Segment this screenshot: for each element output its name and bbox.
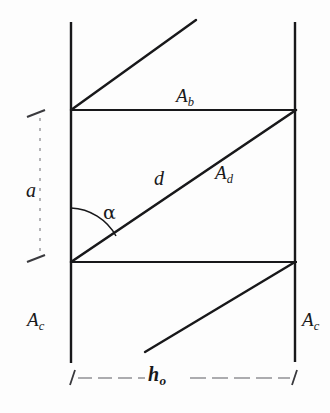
label-angle-alpha: α [103, 203, 116, 222]
label-area-d-base: A [215, 162, 227, 183]
label-area-c-left: Ac [27, 310, 44, 329]
label-area-c-right-base: A [302, 309, 314, 330]
bottom-diagonal-line [145, 262, 295, 352]
diagram-canvas [0, 0, 330, 413]
main-diagonal-line [71, 110, 296, 262]
label-area-c-left-base: A [27, 309, 39, 330]
label-diagonal-d: d [154, 168, 164, 188]
label-width-ho-subscript: o [159, 373, 166, 388]
label-area-c-right-subscript: c [314, 319, 320, 333]
label-width-ho-base: h [148, 363, 159, 385]
height-dimension-tick-bottom [27, 255, 45, 262]
technical-diagram: Ab Ad d a α Ac Ac ho [0, 0, 330, 413]
height-dimension-tick-top [27, 110, 45, 117]
label-area-b-base: A [176, 85, 188, 106]
label-area-c-right: Ac [302, 310, 319, 329]
width-dimension-tick-left [70, 370, 75, 385]
label-area-d: Ad [215, 163, 233, 182]
label-height-a: a [26, 180, 36, 200]
label-area-c-left-subscript: c [39, 319, 45, 333]
width-dimension-tick-right [292, 370, 297, 385]
label-area-b-subscript: b [188, 95, 194, 109]
label-area-b: Ab [176, 86, 194, 105]
label-area-d-subscript: d [227, 172, 233, 186]
label-width-ho: ho [148, 364, 166, 384]
